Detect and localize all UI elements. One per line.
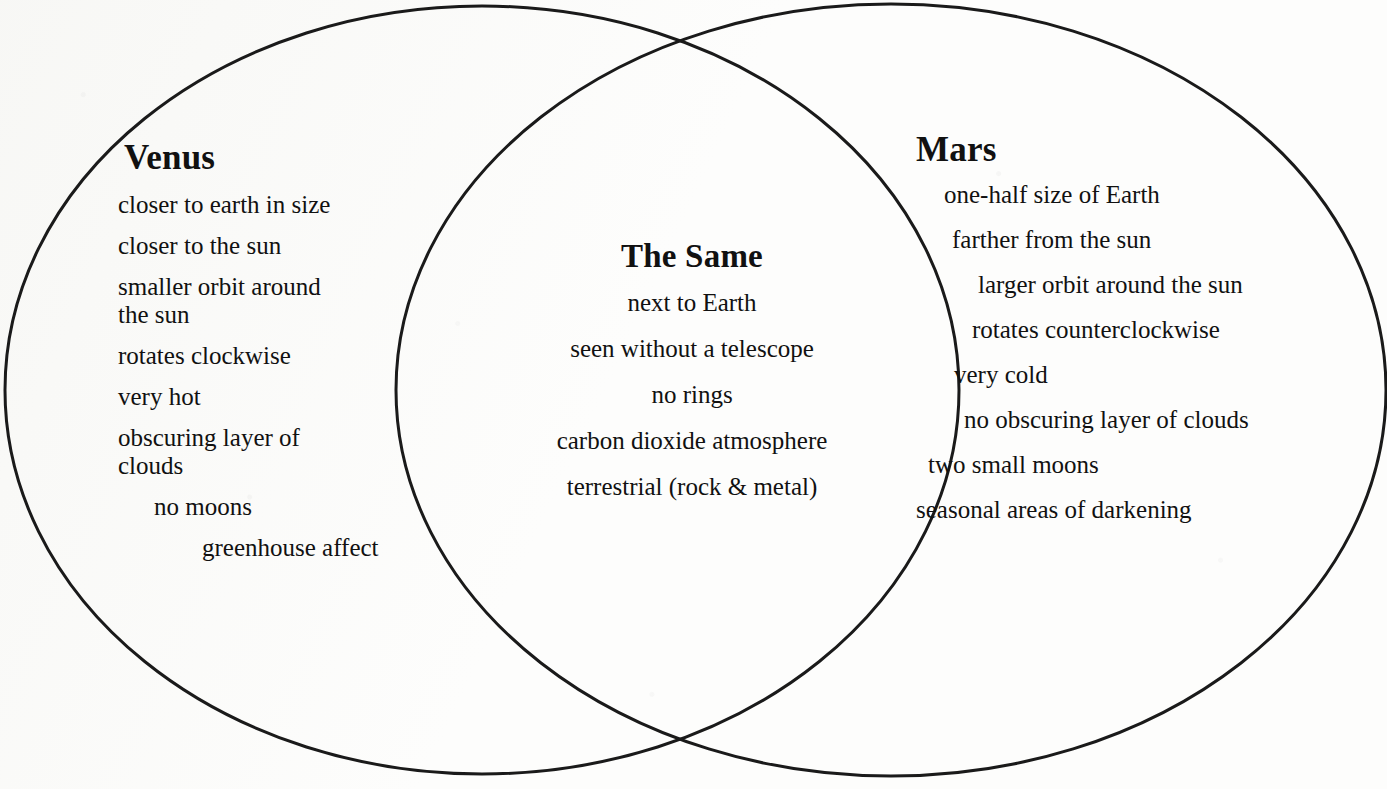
same-heading: The Same <box>448 238 936 275</box>
list-item: no rings <box>448 381 936 409</box>
mars-item-list: one-half size of Earth farther from the … <box>916 181 1366 524</box>
list-item: larger orbit around the sun <box>916 271 1366 299</box>
venus-section: Venus closer to earth in size closer to … <box>118 140 418 562</box>
list-item: rotates clockwise <box>118 342 418 370</box>
list-item: two small moons <box>916 451 1366 479</box>
list-item: terrestrial (rock & metal) <box>448 473 936 501</box>
same-item-list: next to Earth seen without a telescope n… <box>448 289 936 501</box>
list-item: seen without a telescope <box>448 335 936 363</box>
list-item: smaller orbit around the sun <box>118 273 418 329</box>
list-item: greenhouse affect <box>118 534 418 562</box>
list-item: farther from the sun <box>916 226 1366 254</box>
list-item: next to Earth <box>448 289 936 317</box>
venus-item-list: closer to earth in size closer to the su… <box>118 191 418 562</box>
list-item: no moons <box>118 493 418 521</box>
list-item: one-half size of Earth <box>916 181 1366 209</box>
list-item: seasonal areas of darkening <box>916 496 1366 524</box>
list-item: very cold <box>916 361 1366 389</box>
list-item: closer to earth in size <box>118 191 418 219</box>
list-item: very hot <box>118 383 418 411</box>
same-section: The Same next to Earth seen without a te… <box>448 238 936 501</box>
mars-section: Mars one-half size of Earth farther from… <box>916 132 1366 524</box>
venus-heading: Venus <box>124 140 418 177</box>
list-item: no obscuring layer of clouds <box>916 406 1366 434</box>
mars-heading: Mars <box>916 132 1366 169</box>
list-item: obscuring layer of clouds <box>118 424 418 480</box>
list-item: carbon dioxide atmosphere <box>448 427 936 455</box>
venn-diagram-page: Venus closer to earth in size closer to … <box>0 0 1387 789</box>
list-item: rotates counterclockwise <box>916 316 1366 344</box>
list-item: closer to the sun <box>118 232 418 260</box>
